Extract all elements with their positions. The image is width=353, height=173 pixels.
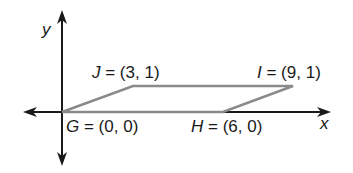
point-name-J: J (92, 63, 101, 82)
parallelogram-GHIJ (62, 86, 293, 112)
point-label-I: I = (9, 1) (257, 63, 321, 83)
point-label-G: G = (0, 0) (66, 117, 138, 137)
point-coords-H: = (6, 0) (203, 117, 262, 136)
point-name-H: H (191, 117, 203, 136)
point-coords-I: = (9, 1) (262, 63, 321, 82)
point-label-H: H = (6, 0) (191, 117, 262, 137)
x-axis-label: x (320, 114, 329, 134)
point-name-G: G (66, 117, 79, 136)
point-coords-G: = (0, 0) (79, 117, 138, 136)
point-coords-J: = (3, 1) (101, 63, 160, 82)
y-axis-label: y (42, 20, 51, 40)
point-label-J: J = (3, 1) (92, 63, 160, 83)
coordinate-plane (0, 0, 353, 173)
